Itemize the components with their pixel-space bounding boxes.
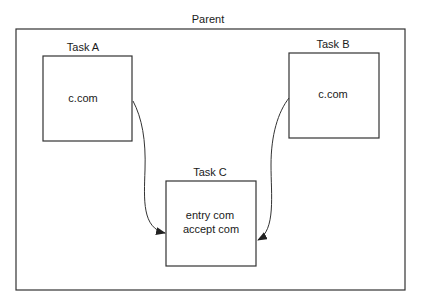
- task-a-title: Task A: [67, 41, 100, 53]
- task-a-content-0: c.com: [68, 92, 97, 104]
- task-c-content-0: entry com: [186, 209, 234, 221]
- diagram-canvas: Parent Task A c.com Task B c.com Task C …: [0, 0, 423, 306]
- parent-label: Parent: [192, 13, 224, 25]
- task-b-content-0: c.com: [318, 88, 347, 100]
- task-c-title: Task C: [193, 166, 227, 178]
- task-b-title: Task B: [316, 38, 349, 50]
- edge-a-to-c: [133, 101, 165, 233]
- parent-box: [16, 29, 405, 290]
- task-c-content-1: accept com: [183, 223, 239, 235]
- edge-b-to-c: [258, 98, 289, 240]
